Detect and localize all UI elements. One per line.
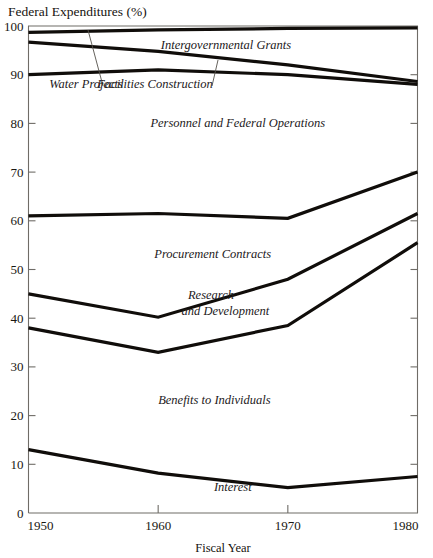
- plot-border: [29, 26, 418, 513]
- series-label-research: Research: [187, 288, 234, 302]
- series-line: [29, 28, 418, 32]
- y-tick-label: 0: [17, 506, 24, 521]
- series-label-personnel-and-federal-operations: Personnel and Federal Operations: [149, 116, 325, 130]
- series-label-and-development: and Development: [182, 304, 270, 318]
- series-label-benefits-to-individuals: Benefits to Individuals: [158, 393, 271, 407]
- y-tick-label: 80: [11, 116, 24, 131]
- y-tick-label: 30: [11, 359, 24, 374]
- series-label-interest: Interest: [213, 480, 252, 494]
- series-label-facilities-construction: Facilities Construction: [96, 77, 213, 91]
- y-axis-title: Federal Expenditures (%): [8, 4, 147, 19]
- y-tick-label: 90: [11, 67, 24, 82]
- series-label-procurement-contracts: Procurement Contracts: [153, 247, 271, 261]
- x-tick-label: 1980: [393, 518, 419, 533]
- y-tick-label: 40: [11, 311, 24, 326]
- y-tick-label: 100: [4, 19, 24, 34]
- y-tick-label: 20: [11, 408, 24, 423]
- plot-frame: [29, 26, 418, 513]
- series-line: [29, 172, 418, 218]
- expenditures-line-chart: Federal Expenditures (%)0102030405060708…: [0, 0, 433, 558]
- x-tick-label: 1950: [28, 518, 54, 533]
- chart-container: Federal Expenditures (%)0102030405060708…: [0, 0, 433, 558]
- x-tick-label: 1960: [145, 518, 171, 533]
- x-axis-title: Fiscal Year: [195, 541, 251, 555]
- y-tick-label: 60: [11, 213, 24, 228]
- y-axis: 0102030405060708090100: [4, 19, 418, 521]
- x-axis: 1950196019701980: [28, 505, 419, 533]
- series-label-intergovernmental-grants: Intergovernmental Grants: [160, 38, 292, 52]
- series-labels: Intergovernmental GrantsWater ProjectsFa…: [49, 38, 325, 494]
- y-tick-label: 50: [11, 262, 24, 277]
- y-tick-label: 70: [11, 165, 24, 180]
- x-tick-label: 1970: [275, 518, 301, 533]
- y-tick-label: 10: [11, 457, 24, 472]
